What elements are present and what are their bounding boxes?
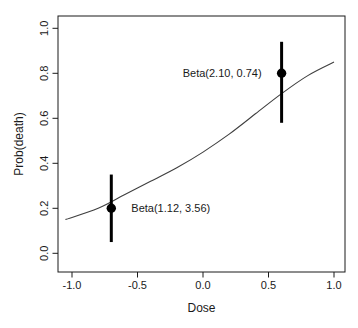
y-tick-label: 0.8 xyxy=(39,66,51,81)
y-tick-label: 0.4 xyxy=(39,156,51,171)
x-tick-label: 0.5 xyxy=(261,279,276,291)
figure-background xyxy=(0,0,358,328)
point-label: Beta(1.12, 3.56) xyxy=(131,202,210,214)
y-tick-label: 0.0 xyxy=(39,246,51,261)
plot-canvas: -1.0-0.50.00.51.0 0.00.20.40.60.81.0 Bet… xyxy=(0,0,358,328)
y-axis-label: Prob(death) xyxy=(12,112,26,175)
x-tick-label: 1.0 xyxy=(326,279,341,291)
figure: -1.0-0.50.00.51.0 0.00.20.40.60.81.0 Bet… xyxy=(0,0,358,328)
point-label: Beta(2.10, 0.74) xyxy=(183,67,262,79)
x-axis-label: Dose xyxy=(187,301,215,315)
x-tick-label: 0.0 xyxy=(195,279,210,291)
x-tick-label: -1.0 xyxy=(63,279,82,291)
y-tick-label: 0.6 xyxy=(39,111,51,126)
y-tick-label: 0.2 xyxy=(39,201,51,216)
data-point xyxy=(107,204,116,213)
y-tick-label: 1.0 xyxy=(39,21,51,36)
data-point xyxy=(277,69,286,78)
x-tick-label: -0.5 xyxy=(128,279,147,291)
